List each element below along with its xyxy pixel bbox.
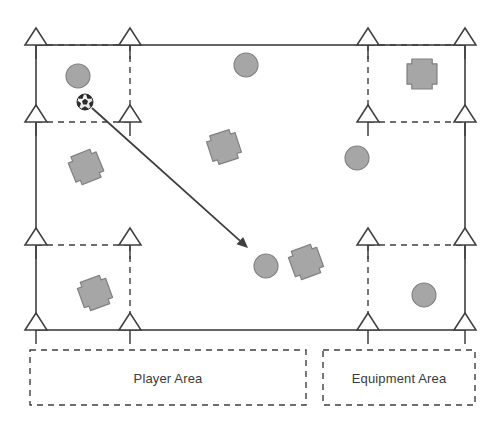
- equipment-cross-4: [76, 274, 114, 312]
- field-diagram: Player Area Equipment Area: [0, 0, 499, 434]
- player-circle-1: [66, 64, 90, 88]
- equipment-cross-3: [407, 59, 437, 89]
- cone-r4c2: [119, 313, 141, 344]
- cone-triangle: [454, 28, 476, 45]
- cone-r4c1: [25, 313, 47, 344]
- cone-triangle: [357, 105, 379, 122]
- arrow-shaft: [92, 108, 240, 241]
- player-circle-2: [234, 53, 258, 77]
- cone-triangle: [119, 313, 141, 330]
- ball-pentagon-1: [86, 93, 92, 99]
- cone-r2c3: [357, 105, 379, 136]
- cone-triangle: [119, 228, 141, 245]
- cone-triangle: [357, 313, 379, 330]
- cone-triangle: [25, 313, 47, 330]
- ball-pentagon-5: [78, 93, 84, 99]
- cone-triangle: [357, 228, 379, 245]
- cone-r3c3: [357, 228, 379, 259]
- player-circle-5: [412, 283, 436, 307]
- player-area-label: Player Area: [30, 371, 306, 386]
- cone-triangle: [25, 228, 47, 245]
- player-circle-3: [345, 146, 369, 170]
- equipment-cross-1: [66, 147, 105, 186]
- cone-r3c2: [119, 228, 141, 259]
- equipment-cross-5: [287, 243, 325, 281]
- cone-r1c4: [454, 28, 476, 59]
- cone-r4c4: [454, 313, 476, 344]
- diagram-canvas: [0, 0, 499, 434]
- cone-r3c4: [454, 228, 476, 259]
- cone-triangle: [25, 105, 47, 122]
- cone-r2c2: [119, 105, 141, 136]
- cone-triangle: [25, 28, 47, 45]
- player-circle-4: [254, 254, 278, 278]
- cone-r1c2: [119, 28, 141, 59]
- equipment-area-label: Equipment Area: [323, 371, 475, 386]
- cone-triangle: [119, 105, 141, 122]
- pass-arrow-group: [92, 108, 248, 248]
- cone-r1c1: [25, 28, 47, 59]
- cone-triangle: [119, 28, 141, 45]
- cone-r2c1: [25, 105, 47, 136]
- equipment-markers-group: [66, 59, 437, 312]
- equipment-cross-2: [205, 128, 243, 166]
- cone-triangle: [454, 105, 476, 122]
- cone-r4c3: [357, 313, 379, 344]
- cone-r2c4: [454, 105, 476, 136]
- cone-r3c1: [25, 228, 47, 259]
- cone-triangle: [454, 313, 476, 330]
- cone-r1c3: [357, 28, 379, 59]
- cone-triangle: [357, 28, 379, 45]
- player-markers-group: [66, 53, 436, 307]
- cone-triangle: [454, 228, 476, 245]
